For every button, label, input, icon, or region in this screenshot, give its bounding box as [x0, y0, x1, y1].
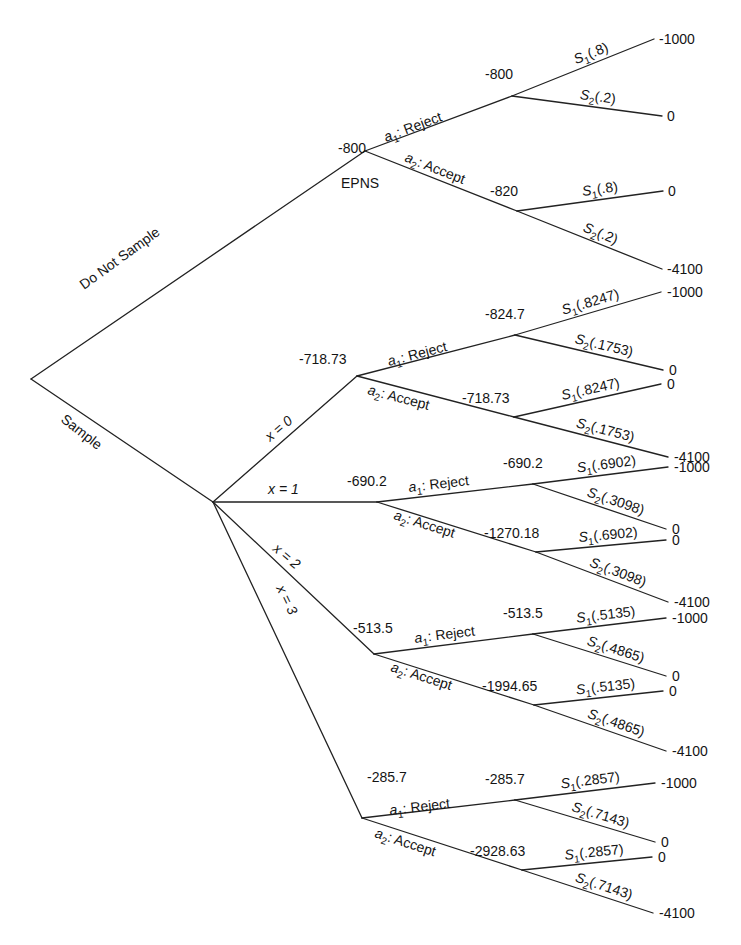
tree-labels: Do Not SampleSample-800EPNSa1: Reject-80…	[58, 31, 710, 921]
payoff-x2-a2-s1: 0	[669, 683, 677, 699]
state-label-x2-a2-s2: S2(.4865)	[585, 705, 647, 742]
decision-tree-diagram: Do Not SampleSample-800EPNSa1: Reject-80…	[0, 0, 741, 945]
branch-label-x2: x = 2	[269, 539, 304, 572]
branch-label-x0: x = 0	[261, 412, 296, 445]
state-label-x2-a2-s1: S1(.5135)	[575, 675, 636, 700]
payoff-x2-a1-s2: 0	[672, 668, 680, 684]
edge-x0-a2-s2	[514, 417, 668, 457]
payoff-x1-a2-s1: 0	[672, 532, 680, 548]
state-label-x3-a1-s2: S2(.7143)	[569, 798, 631, 833]
payoff-epns-a1-s1: -1000	[659, 31, 695, 47]
chance-value-x3-1: -285.7	[485, 771, 525, 787]
payoff-x3-a2-s1: 0	[658, 849, 666, 865]
branch-label-x1: x = 1	[267, 481, 299, 497]
payoff-x3-a2-s2: -4100	[659, 905, 695, 921]
payoff-epns-a2-s1: 0	[668, 183, 676, 199]
payoff-x2-a1-s1: -1000	[672, 610, 708, 626]
chance-value-x3-2: -2928.63	[470, 843, 525, 859]
epns-value: -800	[338, 140, 366, 156]
payoff-x3-a1-s1: -1000	[661, 775, 697, 791]
state-label-x0-a2-s1: S1(.8247)	[560, 374, 622, 406]
branch-label-x3: x = 3	[273, 581, 301, 617]
branch-label-do-not-sample: Do Not Sample	[76, 224, 162, 293]
action-label-epns-2: a2: Accept	[402, 149, 468, 190]
edge-x2-a1-s2	[533, 634, 666, 676]
state-label-x0-a1-s1: S1(.8247)	[560, 286, 622, 321]
chance-value-x2-2: -1994.65	[482, 678, 537, 694]
state-label-epns-a2-s2: S2(.2)	[580, 219, 620, 250]
chance-value-epns-2: -820	[490, 183, 518, 199]
payoff-x0-a2-s1: 0	[667, 376, 675, 392]
payoff-x2-a2-s2: -4100	[672, 743, 708, 759]
edge-sample	[31, 379, 213, 502]
branch-label-sample: Sample	[58, 411, 105, 453]
state-label-x0-a2-s2: S2(.1753)	[574, 414, 636, 447]
state-label-x1-a2-s2: S2(.3098)	[587, 554, 649, 593]
chance-value-x0-1: -824.7	[485, 306, 525, 322]
chance-value-epns-1: -800	[485, 66, 513, 82]
state-label-x3-a2-s2: S2(.7143)	[573, 869, 635, 906]
edge-x3-a1-s2	[515, 800, 655, 842]
chance-value-x1-1: -690.2	[503, 455, 543, 471]
chance-value-x2-1: -513.5	[503, 605, 543, 621]
decision-value-x2: -513.5	[353, 620, 393, 636]
payoff-x1-a2-s2: -4100	[674, 594, 710, 610]
state-label-x0-a1-s2: S2(.1753)	[573, 330, 635, 362]
state-label-x2-a1-s2: S2(.4865)	[584, 632, 646, 668]
payoff-x1-a1-s1: -1000	[674, 459, 710, 475]
state-label-x1-a1-s2: S2(.3098)	[584, 484, 646, 521]
edge-x1-a2-s2	[536, 552, 668, 602]
edge-x2-a2-s2	[534, 705, 666, 751]
state-label-x3-a2-s1: S1(.2857)	[564, 841, 625, 866]
edge-epns-action-2	[365, 151, 517, 211]
action-label-x0-1: a1: Reject	[386, 338, 450, 372]
edge-x1-a1-s2	[533, 484, 666, 529]
decision-value-x1: -690.2	[347, 473, 387, 489]
payoff-x3-a1-s2: 0	[661, 834, 669, 850]
edge-x0-a1-s2	[515, 335, 663, 370]
payoff-epns-a2-s2: -4100	[667, 261, 703, 277]
edge-do-not-sample	[31, 151, 365, 379]
action-label-x1-1: a1: Reject	[408, 472, 471, 498]
action-label-epns-1: a1: Reject	[381, 108, 445, 147]
payoff-x0-a1-s1: -1000	[667, 284, 703, 300]
chance-value-x0-2: -718.73	[462, 390, 510, 406]
edge-sample-x2	[213, 502, 374, 654]
chance-value-x1-2: -1270.18	[484, 525, 539, 541]
payoff-epns-a1-s2: 0	[667, 108, 675, 124]
action-label-x3-1: a1: Reject	[388, 795, 451, 821]
action-label-x1-2: a2: Accept	[391, 507, 457, 544]
action-label-x2-2: a2: Accept	[388, 659, 454, 696]
state-label-epns-a1-s1: S1(.8)	[571, 39, 611, 70]
decision-value-x0: -718.73	[299, 351, 347, 367]
state-label-x1-a2-s1: S1(.6902)	[578, 524, 639, 548]
epns-label: EPNS	[341, 175, 379, 191]
action-label-x3-2: a2: Accept	[372, 825, 438, 863]
decision-value-x3: -285.7	[367, 769, 407, 785]
